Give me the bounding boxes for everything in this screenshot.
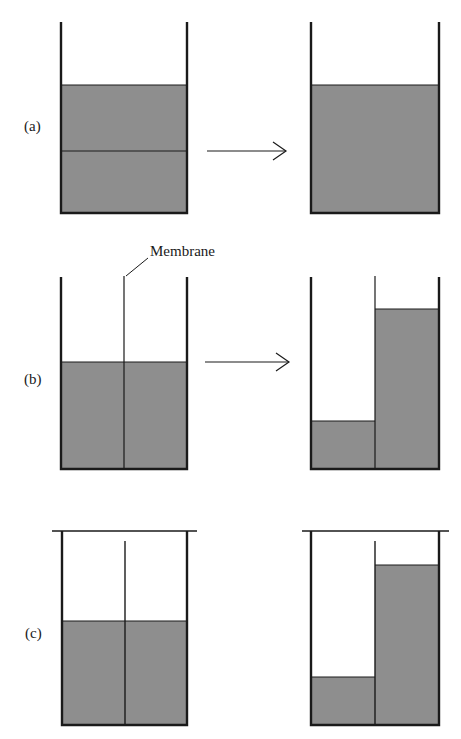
liquid-fill-right bbox=[375, 309, 438, 468]
row-c bbox=[52, 531, 449, 725]
beaker-c-before bbox=[52, 531, 197, 725]
row-b bbox=[61, 258, 439, 469]
row-label-a: (a) bbox=[24, 118, 41, 135]
liquid-fill bbox=[62, 85, 186, 212]
liquid-fill-right bbox=[375, 565, 438, 724]
diagram-canvas bbox=[0, 0, 461, 739]
liquid-fill-left bbox=[312, 677, 375, 724]
row-label-c: (c) bbox=[25, 625, 42, 642]
arrow-b bbox=[205, 353, 289, 371]
beaker-b-before bbox=[61, 258, 187, 469]
row-a bbox=[61, 22, 439, 213]
liquid-fill bbox=[312, 85, 438, 212]
beaker-c-after bbox=[302, 531, 449, 725]
liquid-fill-left bbox=[312, 421, 375, 468]
arrow-a bbox=[207, 142, 286, 160]
beaker-a-after bbox=[311, 22, 439, 213]
membrane-leader-line bbox=[126, 258, 148, 276]
row-label-b: (b) bbox=[24, 371, 42, 388]
membrane-label: Membrane bbox=[150, 243, 215, 260]
beaker-b-after bbox=[311, 276, 439, 469]
beaker-a-before bbox=[61, 22, 187, 213]
